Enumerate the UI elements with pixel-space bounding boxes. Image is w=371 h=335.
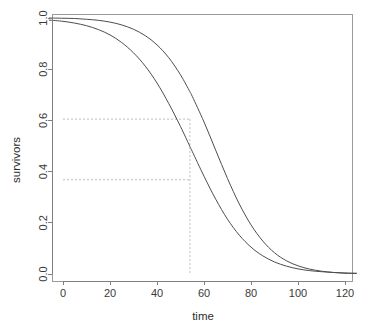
y-tick-label: 0.0 (37, 266, 49, 281)
y-axis-title: survivors (10, 137, 22, 183)
x-tick-label: 0 (60, 287, 66, 299)
y-tick-label: 1.0 (37, 10, 49, 25)
y-tick-label: 0.4 (37, 164, 49, 179)
y-tick-label: 0.6 (37, 113, 49, 128)
x-tick-label: 120 (336, 287, 354, 299)
plot-canvas: 020406080100120 0.00.20.40.60.81.0 time … (0, 0, 371, 335)
x-axis-title: time (192, 310, 214, 322)
x-tick-label: 60 (198, 287, 210, 299)
plot-background (0, 0, 371, 335)
x-tick-label: 40 (151, 287, 163, 299)
x-tick-label: 80 (245, 287, 257, 299)
x-tick-label: 100 (289, 287, 307, 299)
survival-plot: 020406080100120 0.00.20.40.60.81.0 time … (0, 0, 371, 335)
y-tick-label: 0.2 (37, 215, 49, 230)
y-tick-label: 0.8 (37, 62, 49, 77)
x-tick-label: 20 (104, 287, 116, 299)
